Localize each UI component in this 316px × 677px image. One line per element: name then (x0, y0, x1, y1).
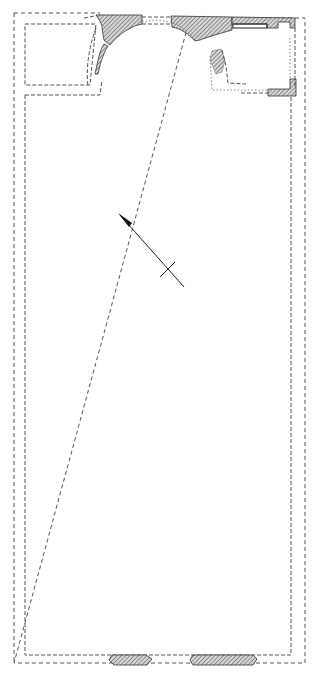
outer-wall-outline (14, 13, 305, 663)
north-arrow-icon (118, 213, 184, 287)
apse (87, 15, 232, 86)
left-annex (25, 15, 100, 85)
inner-wall-outline (25, 80, 291, 655)
floor-plan (0, 0, 316, 677)
